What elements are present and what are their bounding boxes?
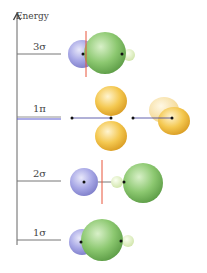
yellow-lobe-front bbox=[158, 107, 190, 135]
yellow-lobe-bottom bbox=[95, 121, 127, 151]
level-1pi: 1π bbox=[17, 86, 190, 151]
green-lobe bbox=[81, 219, 123, 261]
nucleus-dot bbox=[71, 117, 74, 120]
axis-label: Energy bbox=[16, 11, 50, 21]
level-2sigma: 2σ bbox=[17, 160, 163, 204]
nucleus-dot bbox=[83, 181, 86, 184]
pale-lobe bbox=[111, 176, 123, 188]
orbital-1pi-a bbox=[71, 86, 128, 151]
nucleus-dot bbox=[80, 241, 83, 244]
orbital-2sigma bbox=[70, 160, 163, 204]
orbital-3sigma bbox=[68, 31, 135, 77]
nucleus-dot bbox=[120, 240, 123, 243]
green-lobe bbox=[84, 32, 126, 74]
level-label: 1σ bbox=[33, 227, 46, 238]
nucleus-dot bbox=[121, 53, 124, 56]
yellow-lobe-top bbox=[95, 86, 127, 116]
orbital-1sigma bbox=[69, 219, 134, 261]
level-label: 3σ bbox=[33, 41, 46, 52]
molecular-orbital-diagram: Energy 3σ 1π bbox=[0, 0, 207, 273]
orbital-1pi-b bbox=[132, 97, 191, 135]
level-label: 2σ bbox=[33, 168, 46, 179]
nucleus-dot bbox=[110, 117, 113, 120]
level-label: 1π bbox=[33, 103, 46, 114]
nucleus-dot bbox=[123, 181, 126, 184]
pale-lobe bbox=[122, 235, 134, 247]
nucleus-dot bbox=[82, 53, 85, 56]
level-1sigma: 1σ bbox=[17, 219, 134, 261]
level-3sigma: 3σ bbox=[17, 31, 135, 77]
green-lobe bbox=[123, 163, 163, 203]
nucleus-dot bbox=[171, 117, 174, 120]
nucleus-dot bbox=[132, 117, 135, 120]
